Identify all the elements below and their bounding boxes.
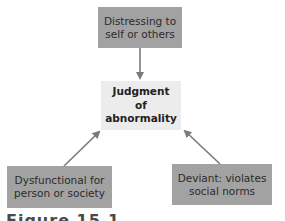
node-distressing-line2: self or others: [104, 28, 176, 41]
center-line1: Judgment: [105, 85, 177, 99]
node-dysfunctional: Dysfunctional for person or society: [7, 166, 112, 208]
node-dysfunctional-line1: Dysfunctional for: [14, 174, 105, 187]
node-distressing: Distressing to self or others: [98, 7, 182, 48]
node-judgment-of-abnormality: Judgment of abnormality: [101, 81, 181, 130]
node-deviant: Deviant: violates social norms: [172, 164, 272, 205]
center-line2: of: [105, 99, 177, 113]
center-line3: abnormality: [105, 112, 177, 126]
arrow-left-to-center: [64, 132, 99, 166]
node-deviant-line1: Deviant: violates: [178, 172, 267, 185]
arrow-right-to-center: [185, 131, 220, 164]
node-distressing-line1: Distressing to: [104, 15, 176, 28]
figure-caption: Figure 15.1: [6, 211, 120, 221]
node-dysfunctional-line2: person or society: [14, 187, 105, 200]
node-deviant-line2: social norms: [178, 185, 267, 198]
